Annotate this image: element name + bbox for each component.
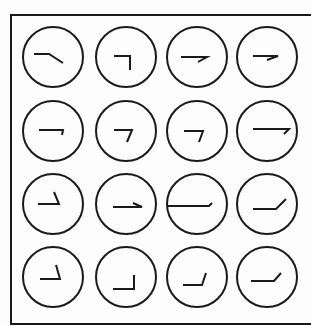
clock-circle: [23, 247, 83, 307]
bent-hand-line: [183, 273, 206, 285]
clock-cell-r2-c4: [237, 101, 297, 161]
clock-circle: [96, 247, 156, 307]
bent-hand-line: [40, 265, 60, 279]
clock-cell-r1-c3: [167, 27, 227, 87]
clock-cell-r3-c1: [23, 174, 83, 234]
bent-hand-line: [253, 199, 286, 209]
figure-canvas: [0, 0, 311, 326]
bent-hand-line: [253, 56, 278, 60]
clock-cell-r3-c2: [96, 174, 156, 234]
clock-circle: [237, 247, 297, 307]
bent-hand-line: [168, 203, 212, 206]
clock-cell-r2-c1: [23, 101, 83, 161]
clock-cell-r4-c3: [167, 247, 227, 307]
bent-hand-line: [113, 203, 142, 207]
bent-hand-line: [113, 275, 134, 289]
bent-hand-line: [253, 129, 289, 134]
clock-cell-r4-c4: [237, 247, 297, 307]
frame-border: [11, 15, 311, 324]
bent-hand-line: [251, 273, 281, 281]
clock-cell-r2-c3: [167, 101, 227, 161]
clock-circle: [167, 174, 227, 234]
bent-hand-line: [114, 56, 130, 70]
clock-circle: [167, 247, 227, 307]
clock-grid: [23, 27, 297, 307]
bent-hand-line: [39, 130, 63, 135]
clock-cell-r4-c1: [23, 247, 83, 307]
bent-hand-line: [34, 54, 63, 63]
clock-cell-r1-c4: [237, 27, 297, 87]
clock-cell-r1-c1: [23, 27, 83, 87]
clock-cell-r1-c2: [96, 27, 156, 87]
clock-cell-r3-c3: [167, 174, 227, 234]
clock-circle: [96, 174, 156, 234]
clock-cell-r4-c2: [96, 247, 156, 307]
bent-hand-line: [38, 192, 59, 204]
clock-cell-r2-c2: [96, 101, 156, 161]
bent-hand-line: [181, 57, 207, 62]
clock-cell-r3-c4: [237, 174, 297, 234]
bent-hand-line: [184, 131, 203, 142]
clock-circle: [237, 174, 297, 234]
bent-hand-line: [114, 130, 132, 142]
